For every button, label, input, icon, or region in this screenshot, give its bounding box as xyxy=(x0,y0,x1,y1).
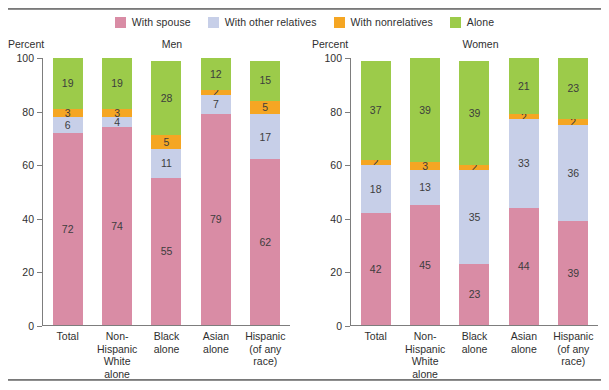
panel-title: Men xyxy=(0,38,324,50)
y-tick xyxy=(37,272,42,273)
x-axis-label: Non-HispanicWhite alone xyxy=(400,330,449,380)
bar-column[interactable]: 726319 xyxy=(53,58,83,325)
x-axis-label-line: alone xyxy=(450,343,499,356)
bar-segment: 6 xyxy=(53,117,83,133)
y-tick-label: 60 xyxy=(330,159,342,171)
legend-item-nonrelatives[interactable]: With nonrelatives xyxy=(334,16,433,28)
x-axis-label: Blackalone xyxy=(142,330,191,380)
legend-label: With other relatives xyxy=(225,16,317,28)
legend-swatch-nonrelatives xyxy=(334,17,345,28)
x-axis-label-line: Hispanic xyxy=(92,343,141,356)
y-tick-label: 100 xyxy=(324,52,342,64)
bar-segment: 19 xyxy=(102,58,132,109)
x-axis-label: Hispanic(of anyrace) xyxy=(241,330,290,380)
x-axis-label-line: (of any xyxy=(549,343,598,356)
bar-column[interactable]: 5511528 xyxy=(151,58,181,325)
x-axis-label-line: Non- xyxy=(400,330,449,343)
x-axis-label-line: alone xyxy=(191,343,240,356)
bar-segment: 12 xyxy=(201,58,231,90)
bar-column[interactable]: 4218237 xyxy=(361,58,391,325)
x-axis-label-line: alone xyxy=(142,343,191,356)
bar-segment: 13 xyxy=(410,170,440,205)
x-axis-label-line: (of any xyxy=(241,343,290,356)
x-axis-label: Non-HispanicWhite alone xyxy=(92,330,141,380)
bar-segment: 21 xyxy=(509,58,539,114)
x-axis-line xyxy=(350,325,598,326)
x-axis-label-line: Hispanic xyxy=(549,330,598,343)
x-axis-label: Blackalone xyxy=(450,330,499,380)
bar-segment: 5 xyxy=(250,101,280,114)
bar-segment: 3 xyxy=(410,162,440,170)
bar-segment: 39 xyxy=(459,61,489,165)
y-tick-label: 100 xyxy=(16,52,34,64)
top-divider xyxy=(8,8,601,10)
x-axis-label-line: Asian xyxy=(191,330,240,343)
bar-segment: 7 xyxy=(201,95,231,114)
plot-area-women: 020406080100 421823745133392335239443322… xyxy=(350,58,598,326)
bar-segment: 15 xyxy=(250,61,280,101)
y-tick xyxy=(345,58,350,59)
legend-label: With spouse xyxy=(132,16,191,28)
legend-item-spouse[interactable]: With spouse xyxy=(115,16,191,28)
bar-segment: 4 xyxy=(102,117,132,128)
y-tick-label: 0 xyxy=(28,320,34,332)
bar-column[interactable]: 797212 xyxy=(201,58,231,325)
bar-segment: 3 xyxy=(102,109,132,117)
legend-item-alone[interactable]: Alone xyxy=(450,16,494,28)
y-tick-label: 40 xyxy=(330,213,342,225)
x-axis-line xyxy=(42,325,290,326)
bar-segment: 62 xyxy=(250,159,280,325)
y-tick xyxy=(345,219,350,220)
legend-swatch-spouse xyxy=(115,17,126,28)
y-tick-label: 20 xyxy=(330,266,342,278)
bar-column[interactable]: 3936223 xyxy=(558,58,588,325)
x-axis-label-line: White alone xyxy=(400,355,449,380)
y-tick xyxy=(345,326,350,327)
x-axis-label-line: White alone xyxy=(92,355,141,380)
bar-segment: 36 xyxy=(558,125,588,221)
y-tick-label: 0 xyxy=(336,320,342,332)
bar-group-women: 42182374513339233523944332213936223 xyxy=(351,58,598,325)
y-tick xyxy=(345,165,350,166)
y-tick-label: 80 xyxy=(22,106,34,118)
bar-segment: 44 xyxy=(509,208,539,325)
x-axis-label-line: Total xyxy=(351,330,400,343)
bar-segment: 19 xyxy=(53,58,83,109)
bar-group-men: 72631974431955115287972126217515 xyxy=(43,58,290,325)
x-axis-label: Asianalone xyxy=(191,330,240,380)
x-axis-label-line: Black xyxy=(450,330,499,343)
y-tick-label: 40 xyxy=(22,213,34,225)
panel-header: Percent Men xyxy=(0,38,304,56)
bar-column[interactable]: 4513339 xyxy=(410,58,440,325)
chart-panel-women: Percent Women 020406080100 4218237451333… xyxy=(304,38,609,378)
x-axis-labels-men: TotalNon-HispanicWhite aloneBlackaloneAs… xyxy=(43,330,290,380)
x-axis-label-line: race) xyxy=(241,355,290,368)
bar-segment: 28 xyxy=(151,61,181,136)
y-tick xyxy=(37,165,42,166)
bar-column[interactable]: 2335239 xyxy=(459,58,489,325)
chart-panel-men: Percent Men 020406080100 726319744319551… xyxy=(0,38,304,378)
bar-column[interactable]: 744319 xyxy=(102,58,132,325)
x-axis-label-line: Non- xyxy=(92,330,141,343)
legend-label: With nonrelatives xyxy=(351,16,433,28)
bar-column[interactable]: 4433221 xyxy=(509,58,539,325)
chart-legend: With spouseWith other relativesWith nonr… xyxy=(0,16,609,28)
bar-segment: 72 xyxy=(53,133,83,325)
y-tick xyxy=(37,112,42,113)
y-tick xyxy=(37,219,42,220)
x-axis-label: Asianalone xyxy=(499,330,548,380)
x-axis-label: Total xyxy=(43,330,92,380)
bar-segment: 18 xyxy=(361,165,391,213)
y-tick xyxy=(37,58,42,59)
x-axis-label: Total xyxy=(351,330,400,380)
legend-label: Alone xyxy=(467,16,494,28)
x-axis-label-line: Hispanic xyxy=(400,343,449,356)
bar-segment: 5 xyxy=(151,135,181,148)
x-axis-label-line: race) xyxy=(549,355,598,368)
bar-column[interactable]: 6217515 xyxy=(250,58,280,325)
panel-header: Percent Women xyxy=(304,38,609,56)
legend-item-relatives[interactable]: With other relatives xyxy=(208,16,317,28)
bar-segment: 23 xyxy=(558,58,588,119)
x-axis-label-line: Black xyxy=(142,330,191,343)
bar-segment: 39 xyxy=(558,221,588,325)
